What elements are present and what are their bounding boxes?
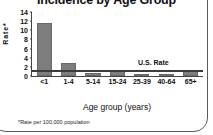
plot-area: Rate* 02468101214 U.S. Rate <11-45-1415-… (0, 12, 213, 92)
us-rate-label: U.S. Rate (138, 59, 169, 66)
y-tick-mark (30, 30, 32, 31)
y-tick-mark (30, 76, 32, 77)
y-tick-mark (30, 39, 32, 40)
x-axis-label: Age group (years) (31, 102, 203, 112)
y-tick-label: 0 (24, 73, 28, 80)
x-tick-label: 65+ (179, 78, 203, 85)
x-tick-label: <1 (32, 78, 56, 85)
y-tick-label: 4 (24, 54, 28, 61)
bar (159, 74, 174, 76)
y-tick-mark (30, 57, 32, 58)
x-axis-line (31, 76, 203, 77)
y-tick-label: 12 (20, 18, 28, 25)
x-tick-label: 40-64 (154, 78, 178, 85)
x-tick-label: 5-14 (81, 78, 105, 85)
y-tick-mark (30, 21, 32, 22)
y-tick-label: 8 (24, 36, 28, 43)
y-axis-tick-labels: 02468101214 (12, 12, 28, 76)
y-axis-label: Rate* (2, 14, 9, 54)
bar (134, 74, 149, 76)
y-tick-label: 10 (20, 27, 28, 34)
chart-footnote: *Rate per 100,000 population (18, 119, 90, 125)
y-tick-mark (30, 12, 32, 13)
y-tick-mark (30, 66, 32, 67)
bar-series (32, 12, 203, 76)
us-rate-line (31, 70, 203, 72)
chart-title: Incidence by Age Group (0, 0, 213, 7)
y-tick-mark (30, 48, 32, 49)
bar (37, 23, 52, 76)
y-tick-label: 6 (24, 45, 28, 52)
bar (85, 73, 100, 76)
x-tick-label: 15-24 (105, 78, 129, 85)
x-tick-label: 25-39 (130, 78, 154, 85)
x-axis-tick-labels: <11-45-1415-2425-3940-6465+ (32, 78, 203, 92)
y-tick-label: 2 (24, 63, 28, 70)
chart-figure: Incidence by Age Group Rate* 02468101214… (0, 0, 213, 135)
y-tick-label: 14 (20, 9, 28, 16)
x-tick-label: 1-4 (56, 78, 80, 85)
